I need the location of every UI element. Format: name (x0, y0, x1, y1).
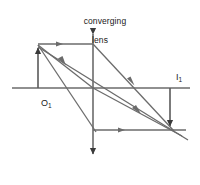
ray-focal-refracted-arrowhead (118, 127, 125, 132)
diagram-title-line1: converging (84, 16, 127, 26)
object-label-subscript: 1 (48, 102, 52, 109)
diagram-title: converging lens (0, 7, 200, 64)
object-label: O1 (31, 88, 52, 119)
image-label: I1 (166, 62, 182, 93)
image-label-subscript: 1 (179, 76, 183, 83)
diagram-title-line2: lens (0, 36, 200, 46)
object-label-main: O (41, 98, 48, 108)
ray-diagram-figure: converging lens O1 I1 (0, 0, 200, 185)
ray-chief-refracted (93, 88, 182, 136)
